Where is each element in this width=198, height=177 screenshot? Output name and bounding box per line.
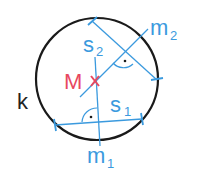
label-s1: s — [110, 92, 121, 117]
label-s2-sub: 2 — [96, 44, 103, 59]
right-angle-arc-2 — [113, 63, 133, 68]
label-m2-sub: 2 — [170, 28, 177, 43]
geometry-diagram: k M s 2 s 1 m 2 m 1 — [0, 0, 198, 177]
label-m1: m — [87, 143, 105, 168]
right-angle-dot-2 — [124, 60, 127, 63]
bisector-m1 — [95, 57, 100, 146]
label-m2: m — [150, 15, 168, 40]
label-s1-sub: 1 — [124, 104, 131, 119]
right-angle-arc-1 — [82, 108, 97, 122]
chord-s1-tick-right — [141, 113, 143, 125]
chord-s1-tick-left — [54, 119, 56, 131]
label-m1-sub: 1 — [107, 156, 114, 171]
right-angle-dot-1 — [90, 116, 93, 119]
label-s2: s — [83, 32, 94, 57]
label-k: k — [17, 89, 29, 114]
label-m-center: M — [64, 69, 82, 94]
chord-s2-tick-right — [151, 78, 163, 80]
